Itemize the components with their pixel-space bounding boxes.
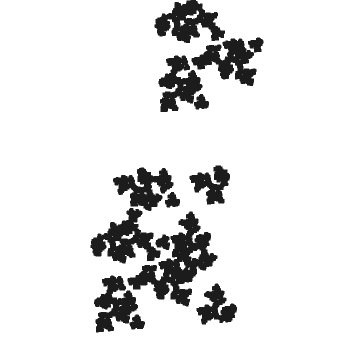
fractal-figure: Pentadendrite fractal [0, 0, 342, 343]
fractal-canvas [0, 0, 342, 343]
